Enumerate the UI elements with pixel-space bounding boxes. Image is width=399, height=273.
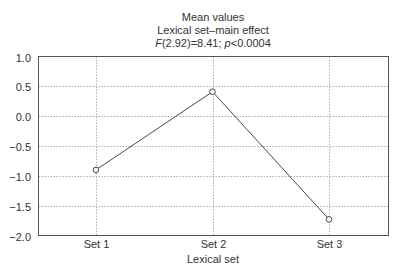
series-line: [96, 92, 329, 220]
line-chart: Mean values Lexical set–main effect F(2.…: [0, 0, 399, 273]
chart-subtitle: Lexical set–main effect: [157, 24, 269, 36]
gridlines: [39, 57, 389, 236]
p-value: <0.0004: [231, 37, 271, 49]
y-tick-label: 0.5: [16, 81, 31, 93]
stat-value: =8.41;: [191, 37, 222, 49]
y-axis-ticks: 1.00.50.0−0.5−1.0−1.5−2.0: [9, 52, 31, 243]
chart-title: Mean values: [182, 11, 245, 23]
chart-annotation: F(2.92)=8.41; p<0.0004: [155, 37, 271, 49]
p-label: p: [224, 37, 231, 49]
y-tick-label: 0.0: [16, 111, 31, 123]
x-tick-label: Set 2: [201, 238, 227, 250]
stat-df: (2.92): [162, 37, 191, 49]
y-tick-label: −1.0: [9, 171, 31, 183]
plot-frame: [39, 57, 389, 236]
y-tick-label: −2.0: [9, 231, 31, 243]
x-tick-label: Set 1: [84, 238, 110, 250]
data-series: [93, 89, 332, 222]
x-tick-label: Set 3: [317, 238, 343, 250]
y-tick-label: −1.5: [9, 201, 31, 213]
data-point-marker: [93, 167, 99, 173]
data-point-marker: [326, 217, 332, 223]
data-point-marker: [210, 89, 216, 95]
y-tick-label: −0.5: [9, 141, 31, 153]
x-axis-label: Lexical set: [187, 253, 239, 265]
y-tick-label: 1.0: [16, 52, 31, 64]
x-axis-ticks: Set 1Set 2Set 3: [84, 238, 343, 250]
